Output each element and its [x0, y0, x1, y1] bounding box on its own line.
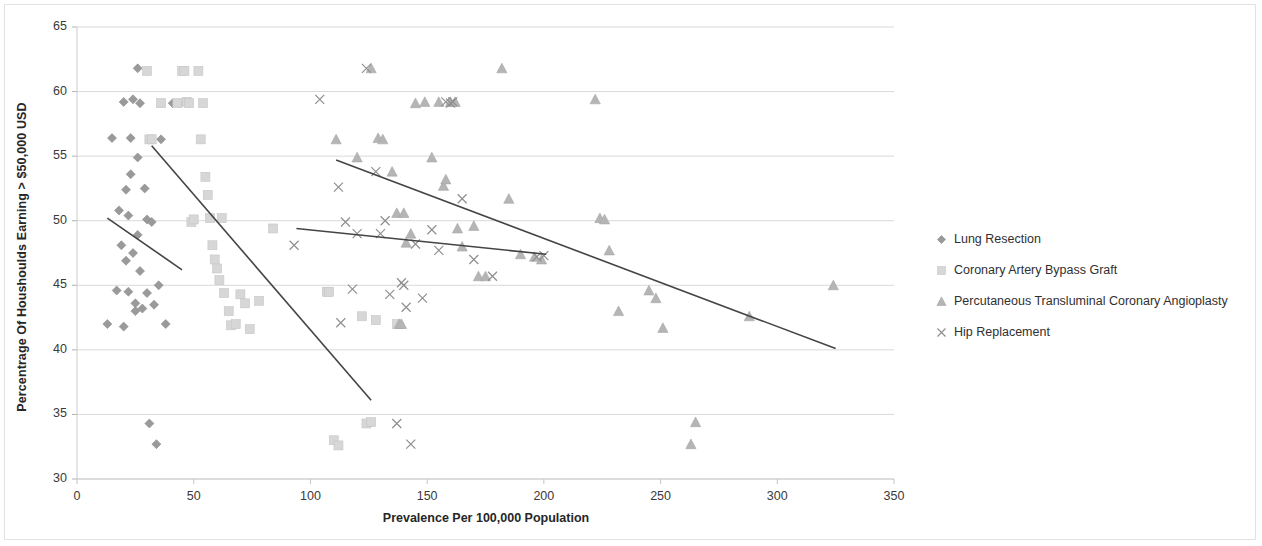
- y-tick-label: 55: [25, 148, 67, 162]
- y-tick-label: 50: [25, 213, 67, 227]
- chart-legend: Lung ResectionCoronary Artery Bypass Gra…: [935, 223, 1253, 347]
- x-tick-label: 350: [869, 489, 919, 503]
- trendline: [296, 228, 546, 254]
- legend-item-label: Coronary Artery Bypass Graft: [954, 263, 1117, 277]
- y-tick-label: 40: [25, 342, 67, 356]
- legend-item[interactable]: Lung Resection: [935, 223, 1253, 254]
- x-tick-label: 150: [402, 489, 452, 503]
- plot-area: 3035404550556065 050100150200250300350 P…: [5, 5, 1257, 541]
- triangle-marker-icon: [937, 297, 946, 306]
- diamond-marker-icon: [935, 232, 948, 245]
- x-tick-label: 0: [52, 489, 102, 503]
- trendline: [336, 160, 836, 349]
- square-marker-icon: [938, 267, 946, 275]
- square-marker-icon: [935, 263, 948, 276]
- legend-item-label: Percutaneous Transluminal Coronary Angio…: [954, 294, 1228, 308]
- legend-item[interactable]: Percutaneous Transluminal Coronary Angio…: [935, 285, 1253, 316]
- x-tick-label: 50: [169, 489, 219, 503]
- legend-item-label: Lung Resection: [954, 232, 1041, 246]
- trendline: [152, 146, 371, 400]
- y-tick-label: 45: [25, 277, 67, 291]
- y-tick-label: 65: [25, 19, 67, 33]
- x-marker-icon: [935, 325, 948, 338]
- x-marker-icon: [938, 329, 946, 337]
- legend-item[interactable]: Coronary Artery Bypass Graft: [935, 254, 1253, 285]
- x-axis-title: Prevalence Per 100,000 Population: [77, 511, 895, 525]
- legend-item-label: Hip Replacement: [954, 325, 1050, 339]
- x-tick-label: 250: [636, 489, 686, 503]
- legend-item[interactable]: Hip Replacement: [935, 316, 1253, 347]
- x-tick-label: 300: [752, 489, 802, 503]
- y-tick-label: 60: [25, 84, 67, 98]
- y-tick-label: 35: [25, 406, 67, 420]
- y-tick-label: 30: [25, 471, 67, 485]
- triangle-marker-icon: [935, 294, 948, 307]
- x-tick-label: 100: [285, 489, 335, 503]
- diamond-marker-icon: [938, 236, 946, 244]
- x-tick-label: 200: [519, 489, 569, 503]
- chart-frame: 3035404550556065 050100150200250300350 P…: [4, 4, 1256, 540]
- y-axis-title: Percentrage Of Houshoulds Earning > $50,…: [15, 92, 29, 422]
- trendline: [107, 218, 182, 270]
